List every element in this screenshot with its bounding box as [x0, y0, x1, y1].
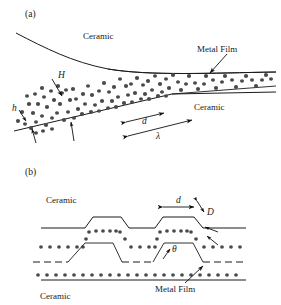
panel-a-label-lambda: λ	[155, 131, 160, 141]
panel-b-theta-leader	[163, 249, 170, 259]
panel-b-top-surface	[41, 217, 246, 228]
panel-b-label-ceramic-bottom: Ceramic	[40, 291, 71, 301]
panel-b-middle-grain-row	[39, 245, 242, 248]
panel-a-label-d: d	[142, 116, 147, 126]
panel-b-upper-grain-row	[84, 229, 198, 240]
panel-a-tick-arrow-2	[71, 122, 74, 141]
panel-a-film-upper-edge	[108, 69, 276, 74]
panel-b-label-ceramic-top: Ceramic	[46, 195, 77, 205]
panel-a-label-metal-film: Metal Film	[197, 44, 237, 54]
panel-a-tick-arrow-1	[32, 129, 36, 143]
panel-b-dim-D-line	[197, 201, 204, 212]
panel-b-film-leader-right	[207, 236, 218, 245]
panel-b-label-metal-film: Metal Film	[155, 284, 195, 294]
panel-a-label-ceramic-bottom: Ceramic	[194, 102, 225, 112]
panel-a-label-H: H	[57, 70, 66, 80]
panel-a-label-ceramic-top: Ceramic	[83, 31, 114, 41]
panel-b: d D θ Metal Film Ceramic Ceramic (b)	[25, 167, 246, 301]
panel-b-label-theta: θ	[172, 244, 177, 254]
panel-b-label-D: D	[206, 207, 214, 217]
figure-svg: H h Metal Film Ceramic Ceramic d λ (a)	[0, 0, 281, 305]
panel-a-tag: (a)	[25, 9, 36, 20]
panel-a-metal-film-leader	[210, 54, 227, 73]
panel-a: H h Metal Film Ceramic Ceramic d λ (a)	[12, 9, 276, 143]
panel-b-tag: (b)	[25, 167, 36, 178]
panel-b-label-d: d	[176, 195, 181, 205]
panel-b-lower-grain-row	[36, 273, 238, 276]
figure-root: H h Metal Film Ceramic Ceramic d λ (a)	[0, 0, 281, 305]
panel-b-inner-trapezoid-right	[153, 243, 203, 262]
panel-a-H-leader	[52, 79, 62, 96]
panel-a-label-h: h	[12, 103, 17, 113]
